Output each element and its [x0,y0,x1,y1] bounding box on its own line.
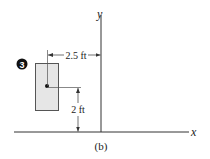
dimension-2ft-label: 2 ft [71,104,85,115]
diagram-canvas: y x 2.5 ft 2 ft 3 (b) [0,0,210,159]
x-axis-label: x [190,125,197,139]
dimension-2-5ft-label: 2.5 ft [65,50,86,61]
step-badge-number: 3 [19,60,24,70]
y-axis-label: y [96,7,103,21]
figure-caption: (b) [95,140,108,153]
